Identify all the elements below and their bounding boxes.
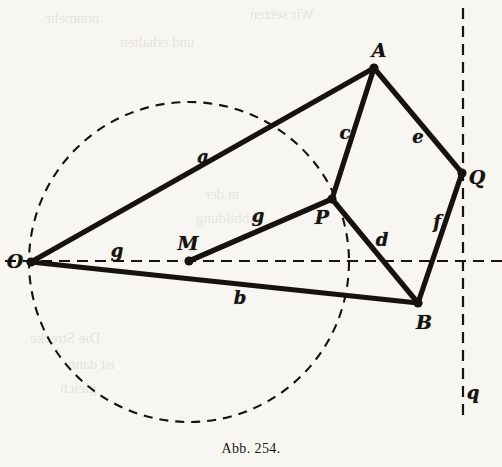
segment-label-e: e [412,128,423,146]
point-label-Q: Q [469,168,486,187]
axis-label-q: q [467,384,480,402]
segment-f [418,173,462,303]
vertex-B [413,298,422,307]
vertex-M [184,256,193,265]
figure-caption: Abb. 254. [0,441,502,457]
segment-label-b: b [234,289,247,307]
vertex-A [369,63,378,72]
point-label-O: O [7,252,24,271]
segment-label-c: c [340,124,351,142]
point-label-P: P [315,208,329,227]
segment-label-d: d [376,231,389,249]
segment-b [31,262,418,303]
segment-label-g: g [252,207,265,225]
segment-label-f: f [433,213,441,231]
point-label-M: M [177,234,198,253]
vertex-P [327,194,336,203]
segment-d [332,199,418,303]
figure-container: Wir setzennunmehrund erhaltenin derAbbil… [0,0,502,467]
vertex-O [26,257,35,266]
segment-e [374,68,462,173]
segment-label-a: a [197,148,209,166]
vertex-Q [457,168,466,177]
segments-layer [31,68,462,303]
point-label-B: B [416,313,432,332]
segment-label-g-axis: g [111,242,124,260]
geometry-diagram [0,0,502,467]
point-label-A: A [372,41,387,60]
